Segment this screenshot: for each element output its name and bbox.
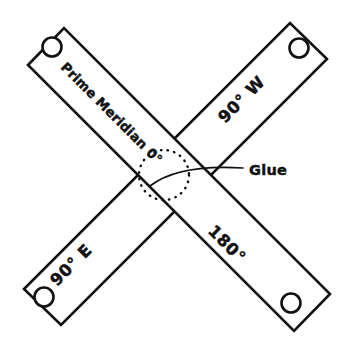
- hole-bottom-left: [35, 288, 54, 307]
- label-glue: Glue: [249, 162, 287, 178]
- figure-canvas: Prime Meridian 0° 90° W 90° E 180° Glue: [0, 0, 351, 353]
- hole-bottom-right: [282, 294, 301, 313]
- hole-top-right: [290, 39, 309, 58]
- meridian-strips-diagram: Prime Meridian 0° 90° W 90° E 180° Glue: [0, 0, 351, 353]
- hole-top-left: [43, 38, 62, 57]
